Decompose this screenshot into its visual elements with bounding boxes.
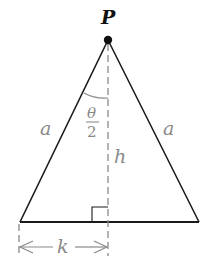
half-angle-arc <box>84 93 108 98</box>
left-side-label: a <box>40 117 51 139</box>
half-base-label: k <box>57 235 69 257</box>
right-angle-marker <box>92 207 108 222</box>
apex-label: P <box>100 6 116 28</box>
triangle-diagram: P a a θ 2 h k <box>0 0 206 271</box>
right-side-label: a <box>163 117 174 139</box>
height-label: h <box>114 145 126 167</box>
right-side-line <box>108 40 199 222</box>
apex-point <box>104 36 112 44</box>
half-angle-numerator: θ <box>87 104 96 122</box>
half-angle-denominator: 2 <box>87 123 97 141</box>
